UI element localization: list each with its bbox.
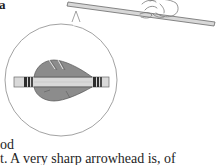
arrow-shaft-icon [67, 2, 215, 26]
arrow-figure-svg [0, 0, 220, 140]
arrow-illustration [0, 0, 220, 140]
body-text-line-2: t. A very sharp arrowhead is, of [0, 152, 176, 165]
document-page: a [0, 0, 220, 165]
callout-pointer [72, 11, 80, 22]
body-text-line-1: od [0, 138, 14, 152]
